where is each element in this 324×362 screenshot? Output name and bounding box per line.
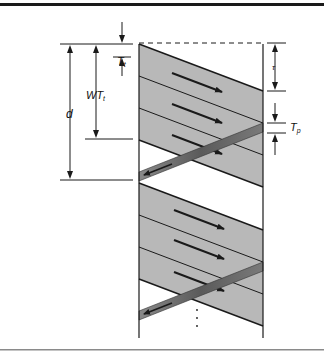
continuation-dots [196, 309, 198, 327]
label-window-time: WTt [86, 89, 106, 102]
right-dimensions [267, 43, 286, 155]
top-border [0, 3, 324, 6]
left-dimensions [60, 22, 133, 180]
bottom-border [0, 349, 324, 351]
label-ack-time: Tp [290, 121, 301, 135]
label-distance: d [66, 107, 73, 121]
sliding-window-diagram: Tt WTt d τ Tp [0, 0, 324, 362]
